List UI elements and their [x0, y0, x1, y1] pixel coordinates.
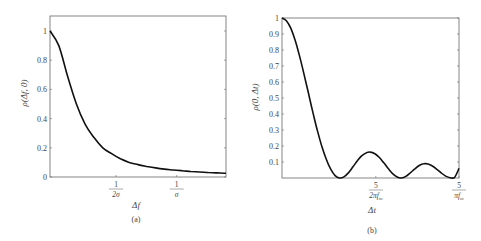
y-tick-label: 0.3: [269, 126, 279, 135]
y-tick-label: 0.5: [269, 94, 279, 103]
y-tick-label: 0.9: [269, 30, 279, 39]
x-tick-denominator: σ: [175, 190, 179, 199]
chart-b-ylabel: ρ(0, Δt): [250, 84, 260, 112]
x-tick-numerator: 1: [175, 180, 179, 189]
x-tick-denominator: 2πfm: [369, 191, 383, 201]
chart-b-curve: [282, 18, 459, 178]
x-tick-denominator: 2σ: [112, 190, 120, 199]
y-tick-label: 0.2: [269, 142, 279, 151]
chart-b: 0.10.20.30.40.50.60.70.80.91 52πfm5πfm ρ…: [250, 14, 466, 235]
chart-b-y-ticks: 0.10.20.30.40.50.60.70.80.91: [269, 14, 459, 167]
y-tick-label: 1: [275, 14, 279, 23]
y-tick-label: 0.6: [269, 78, 279, 87]
y-tick-label: 1: [43, 27, 47, 36]
figure: 00.20.40.60.81 12σ1σ ρ(Δf, 0) Δf (a) 0.1…: [0, 0, 481, 241]
x-tick-numerator: 1: [114, 180, 118, 189]
y-tick-label: 0.4: [269, 110, 279, 119]
y-tick-label: 0.8: [269, 46, 279, 55]
y-tick-label: 0.4: [37, 115, 47, 124]
chart-b-frame: [282, 18, 459, 178]
y-tick-label: 0.2: [37, 144, 47, 153]
chart-a-frame: [50, 16, 226, 177]
chart-a-curve: [50, 31, 226, 173]
chart-b-caption: (b): [367, 226, 377, 235]
chart-a-y-ticks: 00.20.40.60.81: [37, 27, 226, 182]
chart-a-caption: (a): [132, 215, 141, 224]
y-tick-label: 0.8: [37, 56, 47, 65]
y-tick-label: 0.1: [269, 158, 279, 167]
x-tick-denominator: πfm: [454, 191, 464, 201]
chart-a-ylabel: ρ(Δf, 0): [19, 79, 29, 107]
y-tick-label: 0.6: [37, 85, 47, 94]
x-tick-numerator: 5: [457, 181, 461, 190]
chart-a-x-ticks: 12σ1σ: [109, 175, 184, 199]
y-tick-label: 0.7: [269, 62, 279, 71]
chart-b-x-ticks: 52πfm5πfm: [369, 176, 466, 201]
chart-b-xlabel: Δt: [367, 205, 376, 215]
x-tick-numerator: 5: [374, 181, 378, 190]
chart-a-xlabel: Δf: [131, 200, 141, 210]
chart-a: 00.20.40.60.81 12σ1σ ρ(Δf, 0) Δf (a): [19, 16, 226, 224]
y-tick-label: 0: [43, 173, 47, 182]
